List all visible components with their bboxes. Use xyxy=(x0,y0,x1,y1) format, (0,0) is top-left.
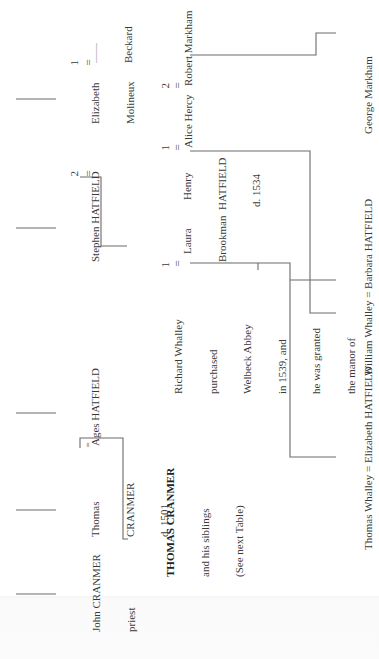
ages-hatfield-name: Ages HATFIELD xyxy=(90,368,102,446)
john-cranmer-note: priest xyxy=(126,554,138,632)
thomas-cranmer-sr-surname: CRANMER xyxy=(125,475,137,537)
alice-hercy-name: Alice Hercy xyxy=(183,95,195,148)
elizabeth-molineux-first: Elizabeth xyxy=(90,81,102,124)
henry-hatfield-death: d. 1534 xyxy=(251,157,263,210)
marriage-sign-stephen-elizabeth: = xyxy=(71,170,94,182)
william-whalley-couple: William Whalley = Barbara HATFIELD xyxy=(363,199,375,376)
stephen-hatfield-name: Stephen HATFIELD xyxy=(90,171,102,262)
henry-hatfield-first: Henry xyxy=(182,157,194,210)
person-laura-brookman: Laura Brookman xyxy=(159,216,240,262)
laura-brookman-first: Laura xyxy=(182,216,194,262)
thomas-cranmer-siblings: and his siblings xyxy=(200,468,212,577)
person-thomas-cranmer: THOMAS CRANMER and his siblings (See nex… xyxy=(142,468,257,577)
thomas-cranmer-reference: (See next Table) xyxy=(234,468,246,577)
henry-hatfield-surname: HATFIELD xyxy=(217,157,229,210)
equals-sign: = xyxy=(82,170,94,176)
laura-brookman-surname: Brookman xyxy=(217,216,229,262)
person-beckard: .......... Beckard xyxy=(66,26,146,63)
robert-markham-name: Robert Markham xyxy=(183,11,195,86)
beckard-surname: Beckard xyxy=(123,26,135,63)
couple-thomas-whalley-elizabeth-hatfield: Thomas Whalley = Elizabeth HATFIELD xyxy=(340,366,379,550)
george-markham-name: George Markham xyxy=(363,56,375,134)
richard-whalley-line: in 1539, and xyxy=(277,315,289,394)
elizabeth-molineux-surname: Molineux xyxy=(125,81,137,124)
richard-whalley-line: purchased xyxy=(208,315,220,394)
person-ages-hatfield: Ages HATFIELD xyxy=(67,368,113,446)
person-alice-hercy: Alice Hercy xyxy=(160,95,206,148)
john-cranmer-name: John CRANMER xyxy=(91,554,103,632)
marriage-sign-whalley-brookman: = xyxy=(160,260,183,272)
thomas-whalley-couple: Thomas Whalley = Elizabeth HATFIELD xyxy=(363,366,375,550)
beckard-first-unknown: .......... xyxy=(89,26,100,63)
person-george-markham: George Markham xyxy=(340,56,379,134)
richard-whalley-line: Richard Whalley xyxy=(173,315,185,394)
person-elizabeth-molineux: Elizabeth Molineux xyxy=(67,81,148,124)
line-alice-robert-issue xyxy=(190,33,336,55)
person-stephen-hatfield: Stephen HATFIELD xyxy=(67,171,113,262)
person-henry-hatfield: Henry HATFIELD d. 1534 xyxy=(159,157,274,210)
couple-william-whalley-barbara-hatfield: William Whalley = Barbara HATFIELD xyxy=(340,199,379,376)
thomas-cranmer-sr-first: Thomas xyxy=(90,475,102,537)
person-robert-markham: Robert Markham xyxy=(160,11,206,86)
richard-whalley-line: Welbeck Abbey xyxy=(242,315,254,394)
richard-whalley-line: he was granted xyxy=(311,315,323,394)
person-john-cranmer: John CRANMER priest xyxy=(68,554,149,632)
thomas-cranmer-name: THOMAS CRANMER xyxy=(165,468,177,577)
